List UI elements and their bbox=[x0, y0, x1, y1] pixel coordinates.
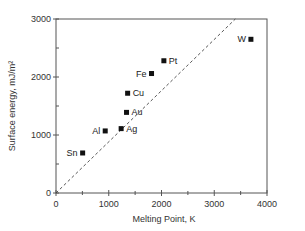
data-point-sn: Sn bbox=[67, 148, 86, 158]
y-tick-label: 0 bbox=[46, 188, 51, 198]
point-label: Sn bbox=[67, 148, 78, 158]
square-marker-icon bbox=[80, 150, 85, 155]
square-marker-icon bbox=[161, 58, 166, 63]
x-tick-label: 1000 bbox=[99, 199, 119, 209]
plot-frame bbox=[56, 19, 267, 193]
point-label: W bbox=[237, 34, 246, 44]
square-marker-icon bbox=[125, 91, 130, 96]
square-marker-icon bbox=[103, 128, 108, 133]
data-point-au: Au bbox=[124, 107, 143, 117]
trend-line-dashed bbox=[56, 19, 235, 193]
point-label: Ag bbox=[126, 124, 137, 134]
x-tick-label: 4000 bbox=[257, 199, 277, 209]
point-label: Pt bbox=[169, 56, 178, 66]
square-marker-icon bbox=[149, 71, 154, 76]
x-tick-label: 3000 bbox=[204, 199, 224, 209]
point-label: Al bbox=[92, 126, 100, 136]
x-axis-title: Melting Point, K bbox=[132, 214, 195, 224]
data-point-al: Al bbox=[92, 126, 108, 136]
point-label: Fe bbox=[136, 69, 147, 79]
square-marker-icon bbox=[119, 126, 124, 131]
data-points: SnAlAgAuCuFePtW bbox=[67, 34, 254, 158]
y-axis-title: Surface energy, mJ/m² bbox=[7, 61, 17, 151]
data-point-w: W bbox=[237, 34, 253, 44]
point-label: Cu bbox=[133, 88, 145, 98]
data-point-cu: Cu bbox=[125, 88, 144, 98]
x-tick-label: 0 bbox=[53, 199, 58, 209]
y-tick-label: 1000 bbox=[31, 130, 51, 140]
y-tick-label: 3000 bbox=[31, 14, 51, 24]
plot-border bbox=[56, 19, 267, 193]
y-tick-label: 2000 bbox=[31, 72, 51, 82]
square-marker-icon bbox=[248, 37, 253, 42]
scatter-chart: 010002000300040000100020003000 SnAlAgAuC… bbox=[0, 0, 305, 231]
point-label: Au bbox=[132, 107, 143, 117]
x-tick-label: 2000 bbox=[151, 199, 171, 209]
trend-line bbox=[56, 19, 235, 193]
axis-ticks bbox=[53, 19, 267, 196]
data-point-ag: Ag bbox=[119, 124, 138, 134]
data-point-pt: Pt bbox=[161, 56, 178, 66]
square-marker-icon bbox=[124, 110, 129, 115]
data-point-fe: Fe bbox=[136, 69, 154, 79]
